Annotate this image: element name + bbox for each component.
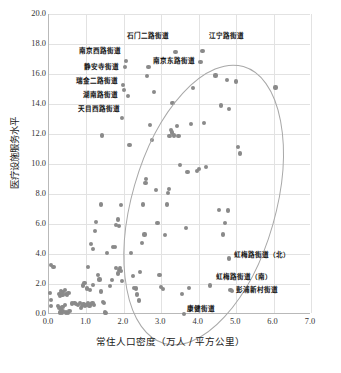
- figure-caption: [0, 361, 341, 373]
- annotation-label: 南京东路街道: [153, 58, 195, 65]
- x-tick-label: 5.0: [220, 318, 250, 326]
- data-point: [48, 291, 52, 295]
- annotation-label: 南京西路街道: [79, 48, 121, 55]
- data-point: [88, 288, 92, 292]
- annotation-label: 湖南路街道: [83, 92, 118, 99]
- data-point: [91, 247, 95, 251]
- x-tick-label: 6.0: [258, 318, 288, 326]
- y-tick-label: 18.0: [4, 40, 46, 48]
- annotation-label: 天目西路街道: [78, 106, 120, 113]
- annotation-label: 虹梅路街道（北）: [234, 252, 290, 259]
- annotation-label: 虹梅路街道（南）: [216, 274, 272, 281]
- x-tick-label: 1.0: [70, 318, 100, 326]
- annotation-label: 江宁路街道: [209, 33, 244, 40]
- confidence-ellipse: [97, 28, 341, 328]
- data-point: [67, 309, 71, 313]
- data-point: [91, 283, 95, 287]
- gridline-y-20: [49, 14, 310, 15]
- x-tick-label: 4.0: [183, 318, 213, 326]
- annotation-label: 瑞金二路街道: [76, 78, 118, 85]
- data-point: [92, 303, 96, 307]
- scatter-plot-figure: 0.02.04.06.08.010.012.014.016.018.020.0 …: [0, 0, 341, 373]
- data-point: [49, 298, 53, 302]
- y-tick-label: 16.0: [4, 70, 46, 78]
- data-point: [89, 242, 93, 246]
- y-axis-title: 医疗设施服务水平: [7, 83, 21, 223]
- x-axis-title: 常住人口密度（万人 / 平方公里）: [0, 334, 341, 348]
- annotation-label: 静安寺街道: [84, 64, 119, 71]
- annotation-label: 石门二路街道: [127, 33, 169, 40]
- y-tick-label: 2.0: [4, 280, 46, 288]
- annotation-label: 彭浦新村街道: [236, 287, 278, 294]
- data-point: [66, 291, 70, 295]
- x-tick-label: 0.0: [33, 318, 63, 326]
- x-tick-label: 2.0: [108, 318, 138, 326]
- data-point: [49, 304, 53, 308]
- x-tick-label: 7.0: [295, 318, 325, 326]
- annotation-label: 康健街道: [187, 306, 215, 313]
- data-point: [63, 303, 67, 307]
- data-point: [51, 265, 55, 269]
- data-point: [60, 293, 64, 297]
- x-tick-label: 3.0: [145, 318, 175, 326]
- y-tick-label: 4.0: [4, 250, 46, 258]
- data-point: [86, 265, 90, 269]
- data-point: [82, 281, 86, 285]
- y-tick-label: 20.0: [4, 10, 46, 18]
